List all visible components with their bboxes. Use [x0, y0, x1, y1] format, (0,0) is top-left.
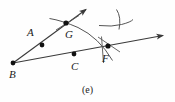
point-g: [63, 20, 68, 25]
point-label-g: G: [65, 29, 73, 40]
point-label-a: A: [27, 27, 34, 38]
figure-caption: (e): [0, 85, 175, 95]
tick-mark-right-icon: [117, 10, 120, 30]
point-label-f: F: [102, 53, 109, 64]
ray-b-f: [13, 36, 163, 64]
geometry-figure: A B C F G (e): [0, 0, 175, 102]
point-f: [105, 43, 110, 48]
point-label-c: C: [71, 61, 78, 72]
point-c: [72, 52, 77, 57]
point-label-b: B: [9, 69, 16, 80]
point-b: [11, 61, 16, 66]
arc-tick-right: [99, 20, 133, 27]
point-a: [40, 43, 45, 48]
